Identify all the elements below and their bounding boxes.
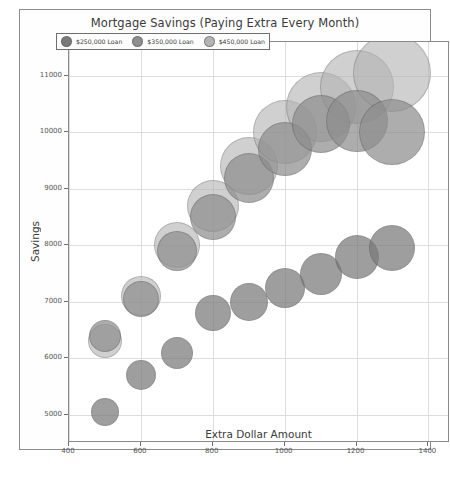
gridline-horizontal [69,358,448,359]
y-tick-label: 10000 [40,127,62,135]
data-point-bubble [359,99,425,165]
y-tick-mark [64,414,68,415]
data-point-bubble [190,194,236,240]
legend-item[interactable]: $350,000 Loan [132,36,193,47]
data-point-bubble [195,295,231,331]
chart-legend[interactable]: $250,000 Loan$350,000 Loan$450,000 Loan [56,33,270,50]
data-point-bubble [230,283,268,321]
x-tick-label: 800 [205,447,218,455]
y-tick-label: 7000 [44,297,62,305]
plot-area [68,41,449,442]
chart-title: Mortgage Savings (Paying Extra Every Mon… [20,16,430,30]
x-tick-label: 400 [61,447,74,455]
x-tick-mark [356,442,357,446]
x-tick-label: 1400 [419,447,437,455]
legend-swatch-circle-icon [132,36,143,47]
y-tick-mark [64,301,68,302]
gridline-vertical [428,42,429,441]
x-axis-label: Extra Dollar Amount [68,428,449,440]
data-point-bubble [369,225,415,271]
legend-label: $350,000 Loan [147,38,193,45]
x-tick-mark [284,442,285,446]
y-axis-label-wrap: Savings [26,41,40,442]
y-tick-mark [64,357,68,358]
y-tick-mark [64,188,68,189]
x-tick-mark [427,442,428,446]
data-point-bubble [126,360,156,390]
x-tick-label: 1000 [275,447,293,455]
x-tick-mark [140,442,141,446]
y-axis-label: Savings [28,41,42,442]
y-tick-label: 11000 [40,71,62,79]
y-tick-mark [64,244,68,245]
y-tick-label: 5000 [44,410,62,418]
y-tick-mark [64,75,68,76]
y-tick-label: 6000 [44,353,62,361]
x-tick-label: 1200 [347,447,365,455]
x-tick-mark [212,442,213,446]
y-tick-label: 8000 [44,240,62,248]
gridline-vertical [213,42,214,441]
legend-swatch-circle-icon [61,36,72,47]
page-background: Mortgage Savings (Paying Extra Every Mon… [0,0,450,477]
data-point-bubble [123,281,159,317]
data-point-bubble [161,337,193,369]
legend-item[interactable]: $450,000 Loan [204,36,265,47]
data-point-bubble [89,320,121,352]
data-point-bubble [157,231,197,271]
figure-frame: Mortgage Savings (Paying Extra Every Mon… [19,9,431,450]
legend-item[interactable]: $250,000 Loan [61,36,122,47]
gridline-horizontal [69,415,448,416]
y-tick-label: 9000 [44,184,62,192]
legend-label: $250,000 Loan [76,38,122,45]
gridline-vertical [69,42,70,441]
x-tick-label: 600 [133,447,146,455]
y-tick-mark [64,131,68,132]
legend-label: $450,000 Loan [219,38,265,45]
data-point-bubble [91,398,119,426]
x-tick-mark [68,442,69,446]
legend-swatch-circle-icon [204,36,215,47]
